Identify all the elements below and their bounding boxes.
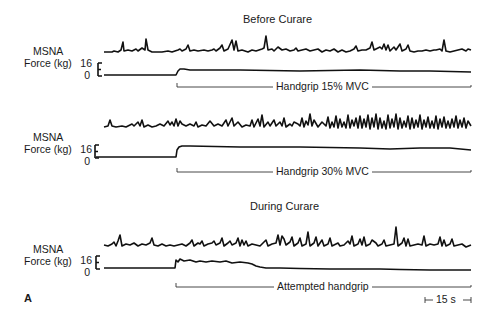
force-scale-bar-row2	[95, 145, 99, 158]
time-scale-label: 15 s	[436, 293, 456, 305]
force-trace-row3	[104, 259, 471, 270]
bracket-label-handgrip-15: Handgrip 15% MVC	[273, 80, 372, 92]
recording-traces	[0, 0, 496, 326]
msna-trace-row1	[104, 36, 471, 52]
force-trace-row2	[96, 146, 471, 157]
msna-trace-row2	[104, 114, 471, 129]
force-scale-bar-row1	[98, 63, 102, 76]
msna-trace-row3	[104, 227, 471, 247]
force-scale-bar-row3	[96, 256, 100, 269]
bracket-label-handgrip-30: Handgrip 30% MVC	[273, 165, 372, 177]
bracket-label-attempted-handgrip: Attempted handgrip	[274, 280, 372, 292]
force-trace-row1	[104, 69, 471, 75]
